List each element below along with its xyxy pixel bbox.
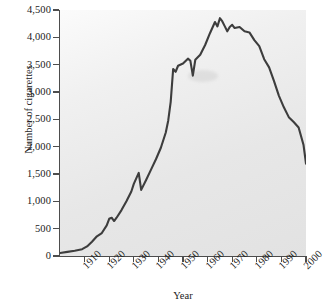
y-axis-spine	[59, 10, 60, 257]
plot-area	[60, 10, 306, 256]
line-series-svg	[60, 10, 306, 256]
y-axis-tick	[53, 64, 59, 65]
y-axis-tick	[53, 228, 59, 229]
x-axis-title: Year	[60, 290, 306, 301]
y-axis-tick	[53, 9, 59, 10]
y-axis-tick	[53, 37, 59, 38]
y-axis-tick	[53, 201, 59, 202]
y-axis-tick-label: 500	[1, 224, 51, 235]
y-axis-title: Number of cigarettes	[23, 30, 34, 190]
y-axis-tick-label: 0	[1, 251, 51, 262]
y-axis-tick-label: 1,000	[1, 196, 51, 207]
y-axis-tick-label: 4,500	[1, 5, 51, 16]
y-axis-tick	[53, 91, 59, 92]
y-axis-tick	[53, 255, 59, 256]
y-axis-tick	[53, 119, 59, 120]
series-line-number-of-cigarettes	[60, 18, 306, 253]
y-axis-tick	[53, 146, 59, 147]
y-axis-tick	[53, 173, 59, 174]
